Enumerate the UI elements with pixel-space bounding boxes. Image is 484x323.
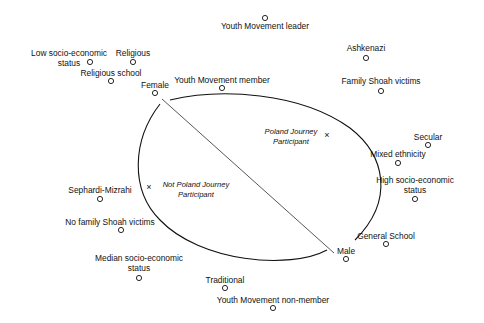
- point-youth-movement-leader: Youth Movement leader: [221, 15, 309, 31]
- point-label: Youth Movement non-member: [217, 295, 330, 305]
- ellipse-arc-upper: [170, 94, 381, 240]
- point-marker-circle-icon: [363, 55, 368, 60]
- correspondence-diagram: Youth Movement leaderAshkenaziFamily Sho…: [0, 0, 484, 323]
- point-label: Family Shoah victims: [341, 76, 420, 86]
- point-marker-circle-icon: [152, 90, 157, 95]
- point-label: Youth Movement leader: [221, 21, 309, 31]
- point-youth-movement-non-member: Youth Movement non-member: [217, 295, 330, 311]
- divider-line: [162, 99, 334, 253]
- group-label: Poland Journey: [265, 127, 319, 136]
- group-label: Participant: [178, 190, 215, 199]
- group-label: Participant: [273, 137, 310, 146]
- point-median-socio-economic-status: Median socio-economicstatus: [95, 253, 183, 281]
- point-mixed-ethnicity: Mixed ethnicity: [370, 149, 426, 166]
- point-label: Traditional: [206, 275, 245, 285]
- group-not-poland-journey-participant: ×Not Poland JourneyParticipant: [146, 180, 230, 199]
- point-marker-circle-icon: [412, 196, 417, 201]
- point-ashkenazi: Ashkenazi: [347, 43, 386, 61]
- point-low-socio-economic-status: Low socio-economicstatus: [31, 48, 107, 68]
- point-marker-circle-icon: [130, 59, 135, 64]
- point-label: High socio-economic: [376, 175, 454, 185]
- point-secular: Secular: [414, 132, 443, 148]
- point-label: General School: [357, 231, 415, 241]
- point-label: No family Shoah victims: [65, 217, 154, 227]
- point-marker-circle-icon: [108, 78, 113, 83]
- point-label: Secular: [414, 132, 443, 142]
- point-label: status: [58, 58, 80, 68]
- group-marker-x-icon: ×: [146, 182, 151, 192]
- point-marker-circle-icon: [262, 15, 267, 20]
- point-marker-circle-icon: [136, 275, 141, 280]
- point-label: Youth Movement member: [174, 75, 270, 85]
- diagram-canvas: Youth Movement leaderAshkenaziFamily Sho…: [0, 0, 484, 323]
- group-marker-x-icon: ×: [324, 130, 329, 140]
- point-marker-circle-icon: [425, 142, 430, 147]
- point-label: Mixed ethnicity: [370, 149, 426, 159]
- point-label: Female: [141, 80, 169, 90]
- point-label: Median socio-economic: [95, 253, 183, 263]
- point-sephardi-mizrahi: Sephardi-Mizrahi: [68, 185, 131, 202]
- point-religious: Religious: [116, 48, 150, 65]
- point-label: Ashkenazi: [347, 43, 386, 53]
- point-marker-circle-icon: [87, 59, 92, 64]
- point-marker-circle-icon: [378, 88, 383, 93]
- point-female: Female: [141, 80, 169, 96]
- point-youth-movement-member: Youth Movement member: [174, 75, 270, 91]
- point-marker-circle-icon: [97, 196, 102, 201]
- point-family-shoah-victims: Family Shoah victims: [341, 76, 420, 94]
- point-marker-circle-icon: [383, 241, 388, 246]
- point-label: status: [404, 185, 426, 195]
- point-religious-school: Religious school: [81, 68, 142, 84]
- point-marker-circle-icon: [270, 305, 275, 310]
- point-label: Male: [337, 246, 355, 256]
- point-label: Religious school: [81, 68, 142, 78]
- point-no-family-shoah-victims: No family Shoah victims: [65, 217, 154, 233]
- point-label: Religious: [116, 48, 150, 58]
- point-marker-circle-icon: [219, 85, 224, 90]
- point-male: Male: [337, 246, 355, 262]
- point-marker-circle-icon: [343, 256, 348, 261]
- point-general-school: General School: [357, 231, 415, 247]
- point-marker-circle-icon: [222, 285, 227, 290]
- point-high-socio-economic-status: High socio-economicstatus: [376, 175, 454, 202]
- point-label: status: [128, 263, 150, 273]
- point-label: Sephardi-Mizrahi: [68, 185, 131, 195]
- point-label: Low socio-economic: [31, 48, 107, 58]
- point-traditional: Traditional: [206, 275, 245, 291]
- point-marker-circle-icon: [118, 227, 123, 232]
- group-label: Not Poland Journey: [163, 180, 231, 189]
- group-poland-journey-participant: ×Poland JourneyParticipant: [265, 127, 330, 146]
- point-marker-circle-icon: [395, 160, 400, 165]
